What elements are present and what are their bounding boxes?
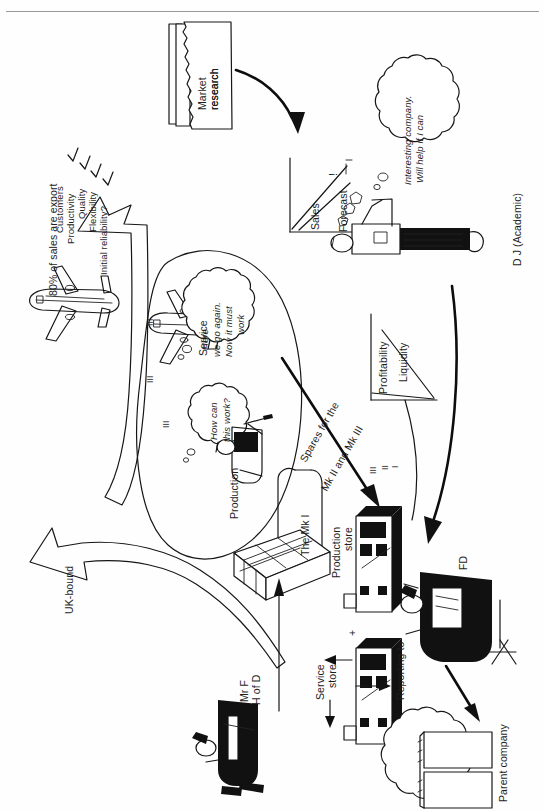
mk-mark-1: I: [390, 466, 400, 468]
aircraft-mark-2: III: [145, 376, 155, 383]
mk-mark-3: III: [368, 467, 378, 474]
aircraft-mark-1: III: [145, 319, 155, 326]
service-store-label-2: store: [326, 664, 338, 688]
academic-bubble-line-1: Interesting company.: [402, 96, 413, 185]
liquidity-label: Liquidity: [397, 343, 409, 382]
service-bubble-line-2: we go again.: [211, 302, 222, 357]
forecast-label: Forecast: [337, 190, 349, 232]
production-store-label-1: Production: [330, 527, 342, 578]
plus-sign-label: +: [346, 630, 358, 636]
service-bubble-line-4: work: [235, 315, 246, 335]
sales-label: Sales: [309, 203, 321, 230]
profitability-label: Profitability: [377, 341, 389, 394]
mk-mark-2: II: [380, 465, 390, 470]
diagram-page: 80% of sales are export UK-bound Custome…: [0, 0, 545, 811]
market-research-label-2: research: [208, 68, 220, 110]
dj-academic-label: D J (Academic): [511, 193, 523, 266]
mk1-banner-label: The Mk I: [299, 514, 311, 556]
production-store-label-2: store: [342, 527, 354, 551]
reporting-to-label: Reporting to: [394, 642, 406, 700]
service-bubble-line-3: Now it must: [223, 306, 234, 357]
aircraft-mark-3: III: [161, 421, 171, 428]
service-bubble-line-1: Here: [199, 329, 210, 350]
sales-exclamation-label: !: [327, 173, 339, 176]
production-bubble-line-2: this work?: [221, 398, 232, 442]
parent-company-label: Parent company: [497, 724, 509, 802]
fd-label: FD: [457, 556, 469, 570]
mrf-label-line-1: Mr F: [238, 680, 250, 702]
production-label: Production: [228, 468, 240, 519]
academic-bubble-line-2: Will help if I can: [414, 115, 425, 183]
criteria-checkmarks: [0, 0, 545, 811]
service-store-label-1: Service: [314, 664, 326, 700]
mrf-label-line-2: H of D: [250, 675, 262, 705]
production-bubble-line-1: How can: [208, 402, 219, 440]
